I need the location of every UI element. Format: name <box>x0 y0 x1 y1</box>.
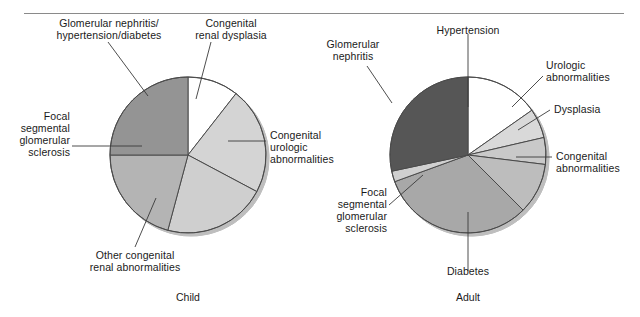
label-child-congenital-renal-dysplasia: Congenital renal dysplasia <box>176 17 286 41</box>
label-child-other-congenital-renal-abnormalities: Other congenital renal abnormalities <box>60 249 210 273</box>
label-adult-congenital-abnormalities: Congenital abnormalities <box>556 150 640 174</box>
label-child-congenital-urologic-abnormalities: Congenital urologic abnormalities <box>270 129 360 165</box>
label-adult-diabetes: Diabetes <box>428 265 508 277</box>
label-child-focal-segmental-glomerular-sclerosis: Focal segmental glomerular sclerosis <box>0 110 70 158</box>
pie-child <box>110 77 266 233</box>
label-adult-glomerular-nephritis: Glomerular nephritis <box>311 38 395 62</box>
figure-two-pie-charts: Glomerular nephritis/ hypertension/diabe… <box>0 0 640 317</box>
label-adult-hypertension: Hypertension <box>413 24 523 36</box>
slice-adult-glomerular-nephritis[interactable] <box>390 77 468 171</box>
label-adult-dysplasia: Dysplasia <box>554 103 634 115</box>
label-child-glomerular-nephritis-hypertension-diabetes: Glomerular nephritis/ hypertension/diabe… <box>28 17 190 41</box>
label-adult-urologic-abnormalities: Urologic abnormalities <box>546 59 638 83</box>
caption-adult: Adult <box>428 291 508 303</box>
slice-child-glomerular-nephritis-hypertension-diabetes[interactable] <box>110 77 188 155</box>
label-adult-focal-segmental-glomerular-sclerosis: Focal segmental glomerular sclerosis <box>305 186 387 234</box>
caption-child: Child <box>148 291 228 303</box>
